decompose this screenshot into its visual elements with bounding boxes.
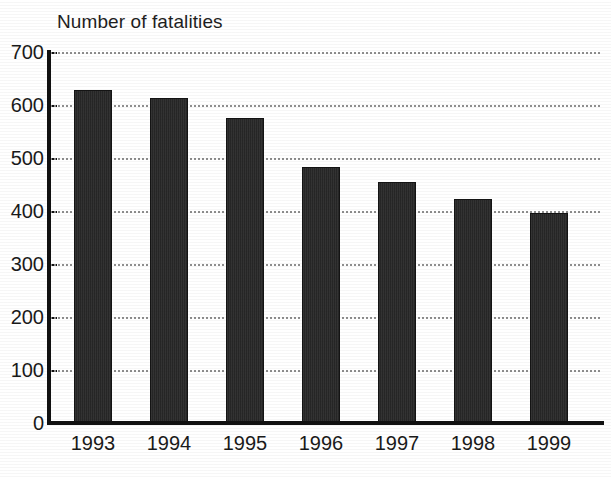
y-axis-tick-label: 200 <box>0 307 44 327</box>
x-axis-tick-label: 1994 <box>131 432 207 454</box>
y-axis-tick-label: 600 <box>0 95 44 115</box>
bar <box>378 182 416 423</box>
x-axis-line <box>47 421 604 425</box>
chart-title: Number of fatalities <box>57 11 223 33</box>
gridline <box>50 105 600 107</box>
bar <box>226 118 264 423</box>
y-axis-tick-label: 500 <box>0 148 44 168</box>
gridline <box>50 52 600 54</box>
x-axis-tick-label: 1993 <box>55 432 131 454</box>
bar <box>74 90 112 423</box>
y-axis-tick-label: 700 <box>0 42 44 62</box>
bar-chart-figure: Number of fatalities 0100200300400500600… <box>0 0 611 477</box>
y-axis-tick-label: 400 <box>0 201 44 221</box>
plot-area <box>50 52 600 423</box>
x-axis-tick-label: 1997 <box>359 432 435 454</box>
x-axis-tick-label: 1995 <box>207 432 283 454</box>
bar <box>454 199 492 423</box>
x-axis-tick-label: 1996 <box>283 432 359 454</box>
bar <box>150 98 188 423</box>
bar <box>302 167 340 423</box>
gridline <box>50 158 600 160</box>
x-axis-tick-label: 1999 <box>511 432 587 454</box>
y-axis-line <box>47 50 51 425</box>
y-axis-tick-label: 300 <box>0 254 44 274</box>
y-axis-tick-label: 100 <box>0 360 44 380</box>
x-axis-tick-label: 1998 <box>435 432 511 454</box>
y-axis-tick-label: 0 <box>0 413 44 433</box>
y-axis-tick-labels: 0100200300400500600700 <box>0 0 44 477</box>
bar <box>530 213 568 423</box>
